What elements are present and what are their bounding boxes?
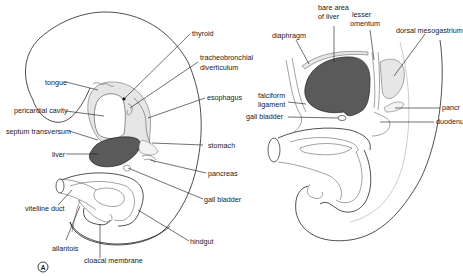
label-dorsal-mesogastrium: dorsal mesogastrium [396, 26, 463, 35]
label-liver: liver [52, 150, 66, 159]
label-right-gall-bladder: gall bladder [246, 112, 284, 121]
label-allantois: allantois [52, 244, 79, 253]
lesser-omentum-shape [372, 52, 380, 110]
gall-bladder-shape [124, 165, 131, 171]
label-lesser-omentum-1: lesser [352, 10, 372, 19]
stomach-right-shape [380, 59, 404, 98]
right-vitelline-end [268, 138, 280, 162]
panel-marker-label: A [41, 264, 46, 271]
label-tongue: tongue [45, 78, 67, 87]
label-pericardial-cavity: pericardial cavity [14, 106, 68, 115]
midgut-loop-inner2 [94, 188, 124, 207]
right-gall-bladder-shape [338, 115, 346, 120]
label-tracheobronchial-1: tracheobronchial [200, 53, 254, 62]
label-falciform-1: falciform [258, 91, 285, 100]
label-thyroid: thyroid [192, 29, 214, 38]
label-duodenum: duodenu [436, 117, 463, 126]
vitelline-duct-end [56, 179, 64, 193]
label-right-pancreas: pancr [442, 103, 461, 112]
label-diaphragm: diaphragm [272, 31, 306, 40]
liver-shape [89, 137, 140, 167]
duodenum-loop [372, 112, 390, 136]
right-cloaca [307, 184, 322, 199]
label-septum-transversum: septum transversum [6, 127, 71, 136]
tail-curve [70, 222, 170, 244]
right-ventral-wall [286, 60, 302, 132]
label-bare-area-2: of liver [318, 12, 340, 21]
right-hindgut-inner [336, 152, 362, 203]
label-bare-area-1: bare area [318, 3, 349, 12]
right-embryo-panel: bare area of liver lesser omentum diaphr… [246, 3, 463, 241]
label-falciform-2: ligament [258, 100, 285, 109]
label-hindgut: hindgut [190, 237, 214, 246]
right-liver-shape [305, 57, 370, 116]
label-cloacal-membrane: cloacal membrane [84, 256, 143, 265]
label-pancreas: pancreas [208, 169, 238, 178]
right-midgut-inner [290, 138, 358, 153]
pericardial-cavity-shape [94, 94, 125, 139]
label-gall-bladder: gall bladder [204, 195, 242, 204]
right-midgut-inner-loop [300, 144, 352, 155]
left-embryo-panel: thyroid tracheobronchial diverticulum to… [6, 12, 254, 272]
label-tracheobronchial-2: diverticulum [200, 63, 238, 72]
label-lesser-omentum-2: omentum [350, 19, 380, 28]
label-stomach: stomach [208, 141, 235, 150]
embryo-gut-diagram: thyroid tracheobronchial diverticulum to… [0, 0, 463, 276]
pancreas-shape [142, 155, 156, 163]
right-pancreas-shape [384, 102, 404, 112]
label-esophagus: esophagus [207, 93, 243, 102]
label-vitelline-duct: vitelline duct [25, 204, 65, 213]
right-vitelline-lower [278, 162, 342, 200]
stomach-shape [139, 140, 158, 155]
